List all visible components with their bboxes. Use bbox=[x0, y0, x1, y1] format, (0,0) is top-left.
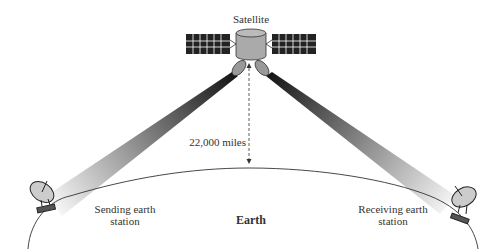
sending-label-line1: Sending earth bbox=[80, 203, 170, 215]
sending-label-line2: station bbox=[80, 215, 170, 227]
satellite-label: Satellite bbox=[219, 13, 283, 25]
receiving-station-label: Receiving earth station bbox=[348, 203, 438, 227]
sending-station-label: Sending earth station bbox=[80, 203, 170, 227]
receiving-dish-icon bbox=[448, 183, 480, 224]
receiving-label-line2: station bbox=[348, 215, 438, 227]
earth-label: Earth bbox=[226, 214, 276, 226]
distance-label: 22,000 miles bbox=[186, 136, 246, 148]
downlink-beam bbox=[266, 72, 456, 214]
sending-dish-icon bbox=[26, 177, 58, 213]
satellite-icon bbox=[186, 29, 316, 78]
receiving-label-line1: Receiving earth bbox=[348, 203, 438, 215]
